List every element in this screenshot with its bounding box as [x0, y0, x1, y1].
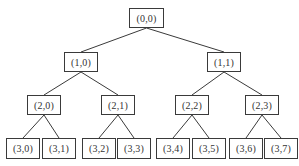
tree-edge: [23, 115, 44, 138]
tree-edge: [192, 115, 209, 138]
tree-node-3-1: (3,1): [42, 138, 76, 159]
tree-edge: [173, 115, 192, 138]
tree-edge: [81, 28, 147, 52]
tree-edge: [224, 72, 262, 95]
tree-node-1-0: (1,0): [64, 52, 98, 72]
tree-edge: [44, 72, 81, 95]
tree-edge: [99, 115, 118, 138]
tree-node-3-2: (3,2): [82, 138, 116, 159]
tree-node-3-0: (3,0): [6, 138, 40, 159]
tree-node-2-1: (2,1): [101, 95, 135, 115]
tree-node-2-3: (2,3): [245, 95, 279, 115]
tree-node-3-4: (3,4): [156, 138, 190, 159]
tree-node-2-2: (2,2): [175, 95, 209, 115]
tree-edge: [44, 115, 59, 138]
tree-edge: [262, 115, 281, 138]
tree-node-2-0: (2,0): [27, 95, 61, 115]
tree-node-3-3: (3,3): [117, 138, 151, 159]
tree-node-3-6: (3,6): [229, 138, 263, 159]
tree-edge: [81, 72, 118, 95]
tree-node-0-0: (0,0): [129, 8, 164, 28]
tree-node-3-7: (3,7): [264, 138, 298, 159]
tree-diagram: (0,0)(1,0)(1,1)(2,0)(2,1)(2,2)(2,3)(3,0)…: [0, 0, 299, 166]
tree-edge: [147, 28, 225, 52]
tree-node-3-5: (3,5): [192, 138, 226, 159]
tree-edge: [118, 115, 134, 138]
tree-node-1-1: (1,1): [207, 52, 241, 72]
tree-edge: [246, 115, 262, 138]
tree-edge: [192, 72, 224, 95]
